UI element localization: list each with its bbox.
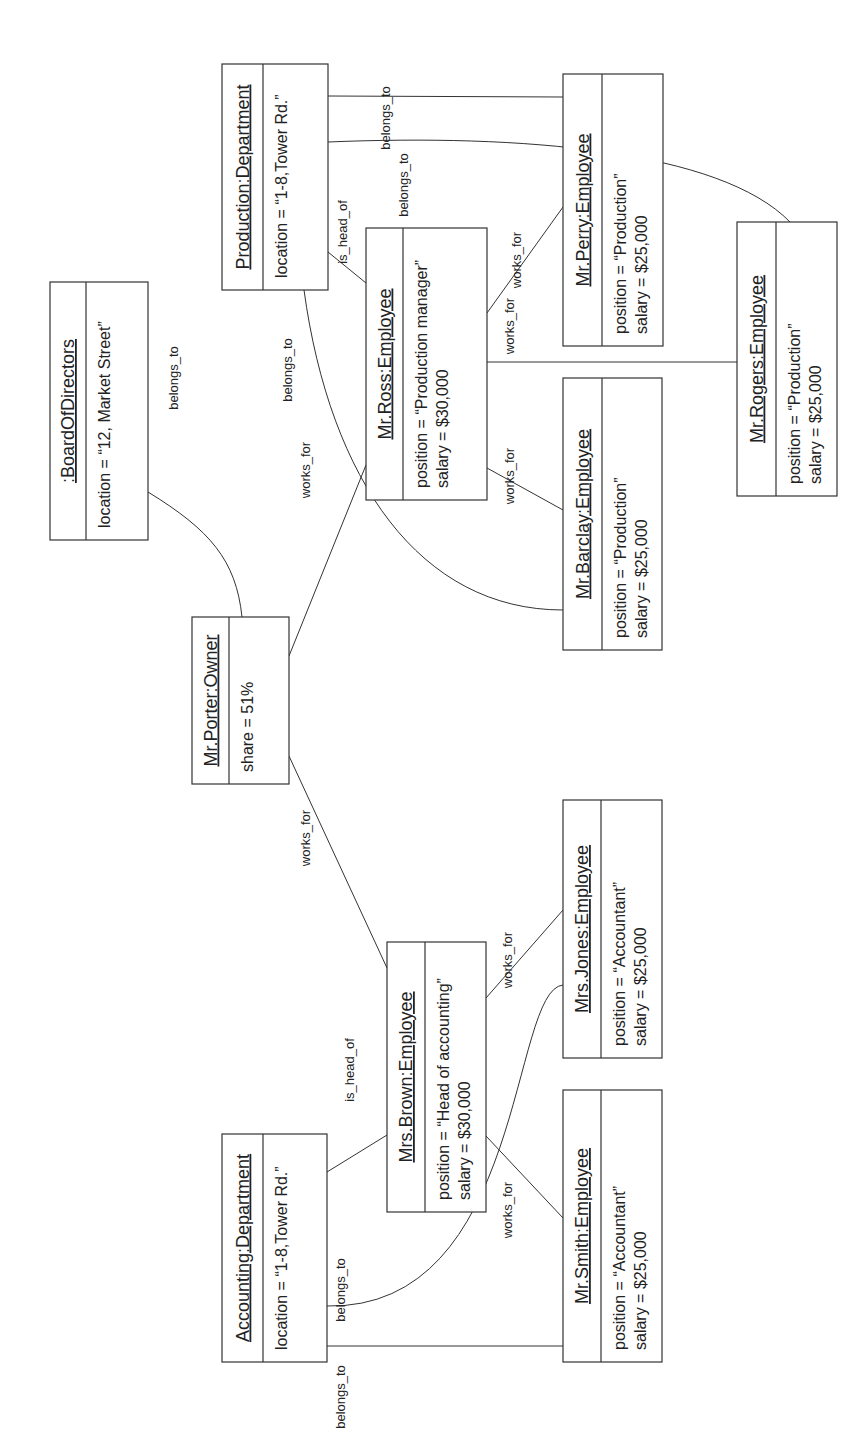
link-ross-barclay: works_for [487, 447, 563, 510]
link-line [486, 1136, 563, 1218]
link-label: works_for [500, 931, 515, 989]
object-accounting: Accounting:Departmentlocation = “1-8,Tow… [222, 1134, 327, 1362]
link-line [487, 207, 563, 313]
objects-layer: :BoardOfDirectorslocation = “12, Market … [50, 64, 837, 1362]
object-attribute: share = 51% [239, 682, 256, 772]
object-title: Mr.Barclay:Employee [573, 429, 593, 599]
link-brown-accounting: is_head_of [327, 1038, 387, 1172]
object-attribute: salary = $25,000 [807, 365, 824, 484]
link-label: belongs_to [333, 1365, 348, 1429]
object-board: :BoardOfDirectorslocation = “12, Market … [50, 282, 148, 540]
object-title: Mr.Perry:Employee [573, 133, 593, 286]
object-attribute: salary = $30,000 [434, 369, 451, 488]
link-smith-accounting: belongs_to [327, 1346, 563, 1429]
object-brown: Mrs.Brown:Employeeposition = “Head of ac… [387, 942, 486, 1212]
object-production: Production:Departmentlocation = “1-8,Tow… [222, 64, 328, 290]
object-attribute: salary = $25,000 [633, 215, 650, 334]
link-label: works_for [502, 447, 517, 505]
object-attribute: location = “1-8,Tower Rd.” [273, 94, 290, 278]
link-ross-production: is_head_of [328, 200, 366, 283]
object-title: Mr.Ross:Employee [375, 288, 395, 439]
object-ross: Mr.Ross:Employeeposition = “Production m… [366, 228, 487, 500]
link-label: works_for [502, 297, 517, 355]
link-rogers-production: belongs_to [328, 140, 790, 222]
link-line [327, 1135, 387, 1172]
link-line [486, 910, 563, 998]
object-title: Mrs.Jones:Employee [572, 845, 592, 1013]
link-porter-ross: works_for [289, 441, 366, 656]
object-rogers: Mr.Rogers:Employeeposition = “Production… [737, 222, 837, 496]
object-porter: Mr.Porter:Ownershare = 51% [192, 617, 289, 784]
link-label: belongs_to [166, 346, 181, 410]
object-title: Mr.Smith:Employee [572, 1148, 592, 1304]
object-attribute: location = “1-8,Tower Rd.” [273, 1166, 290, 1350]
object-attribute: position = “Production” [786, 323, 803, 484]
link-label: is_head_of [342, 1038, 357, 1102]
object-perry: Mr.Perry:Employeeposition = “Production”… [563, 74, 663, 346]
object-title: Mrs.Brown:Employee [396, 991, 416, 1162]
object-attribute: salary = $30,000 [456, 1081, 473, 1200]
object-attribute: salary = $25,000 [632, 1231, 649, 1350]
link-ross-perry: works_for [487, 207, 563, 355]
object-attribute: location = “12, Market Street” [96, 321, 113, 528]
link-label: works_for [509, 231, 524, 289]
link-line [328, 96, 563, 97]
object-smith: Mr.Smith:Employeeposition = “Accountant”… [563, 1090, 662, 1362]
object-barclay: Mr.Barclay:Employeeposition = “Productio… [563, 378, 662, 650]
link-label: works_for [500, 1181, 515, 1239]
link-label: belongs_to [280, 338, 295, 402]
object-diagram: belongs_toworks_forworks_foris_head_ofbe… [0, 0, 866, 1436]
object-title: Mr.Rogers:Employee [747, 275, 767, 443]
link-label: is_head_of [335, 200, 350, 264]
link-line [148, 492, 242, 617]
object-title: Mr.Porter:Owner [201, 634, 221, 766]
object-attribute: salary = $25,000 [633, 519, 650, 638]
object-attribute: salary = $25,000 [632, 927, 649, 1046]
object-attribute: position = “Head of accounting” [435, 978, 452, 1200]
link-label: belongs_to [396, 153, 411, 217]
link-porter-brown: works_for [289, 756, 387, 968]
link-label: works_for [298, 809, 313, 867]
object-attribute: position = “Production” [612, 477, 629, 638]
object-attribute: position = “Accountant” [611, 882, 628, 1046]
link-label: works_for [298, 441, 313, 499]
link-label: belongs_to [333, 1258, 348, 1322]
link-brown-smith: works_for [486, 1136, 563, 1239]
link-ross-perry-2: works_for [509, 231, 524, 289]
link-line [487, 468, 563, 510]
object-title: Accounting:Department [233, 1154, 253, 1342]
link-porter-board: belongs_to [148, 346, 242, 617]
object-attribute: position = “Production” [612, 173, 629, 334]
object-title: :BoardOfDirectors [58, 339, 78, 483]
object-attribute: position = “Production manager” [413, 260, 430, 488]
object-attribute: position = “Accountant” [611, 1186, 628, 1350]
object-jones: Mrs.Jones:Employeeposition = “Accountant… [563, 800, 662, 1058]
object-title: Production:Department [233, 84, 253, 269]
link-brown-jones: works_for [486, 910, 563, 998]
